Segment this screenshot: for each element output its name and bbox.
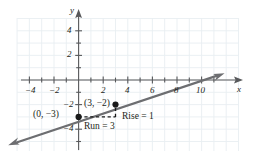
x-tick-label-minus4: −4	[25, 86, 36, 95]
graph-figure: y x −4 −2 2 4 6 8 10 4 2 −2 −4 (0, −3) (…	[0, 0, 255, 162]
x-tick-label-minus2: −2	[49, 86, 60, 95]
run-annotation: Run = 3	[84, 122, 115, 132]
y-axis-label: y	[70, 6, 74, 15]
rise-annotation: Rise = 1	[122, 112, 154, 122]
coordinate-plane	[0, 0, 255, 162]
y-tick-label-minus4: −4	[63, 124, 74, 133]
x-axis-label: x	[237, 85, 241, 94]
y-tick-label-4: 4	[67, 26, 72, 35]
point-0-minus3	[76, 114, 82, 120]
x-tick-label-2: 2	[101, 86, 106, 95]
x-tick-label-10: 10	[196, 86, 205, 95]
x-tick-label-8: 8	[174, 86, 179, 95]
point-3-minus2	[112, 102, 118, 108]
y-tick-label-minus2: −2	[63, 100, 74, 109]
point-label-0-minus3: (0, −3)	[33, 110, 59, 120]
point-label-3-minus2: (3, −2)	[84, 99, 110, 109]
x-tick-label-4: 4	[125, 86, 130, 95]
y-tick-label-2: 2	[67, 50, 72, 59]
x-tick-label-6: 6	[150, 86, 155, 95]
